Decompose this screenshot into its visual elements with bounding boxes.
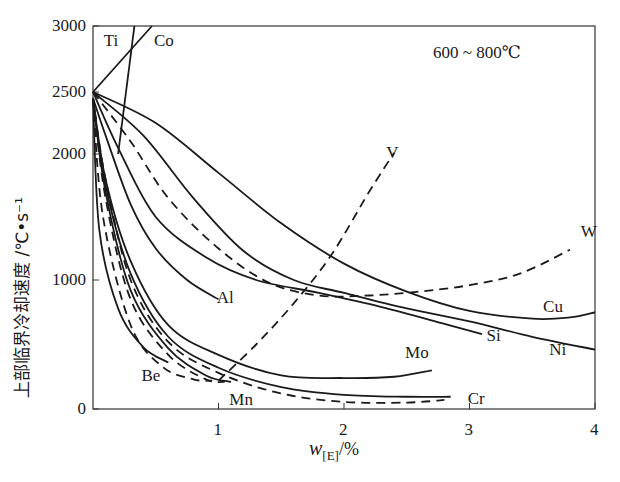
x-axis-label-sub: [E]: [322, 448, 339, 463]
curve-al: [93, 98, 219, 299]
curve-label-ni: Ni: [549, 341, 566, 358]
y-tick-label: 3000: [52, 17, 86, 34]
curve-mo: [93, 98, 432, 378]
curve-label-cr: Cr: [468, 390, 485, 407]
curve-label-si: Si: [487, 327, 501, 344]
y-axis-label: 上部临界冷却速度 /℃•s⁻¹: [8, 197, 33, 398]
chart-plot: [0, 0, 620, 482]
x-axis-label-unit: /%: [339, 439, 359, 459]
curve-label-mn: Mn: [229, 391, 253, 408]
curve-label-v: V: [386, 144, 398, 161]
plot-frame: [93, 26, 595, 409]
curve-cu: [93, 92, 595, 319]
x-axis-label: w[E]/%: [309, 437, 359, 464]
curve-be-mid: [93, 98, 212, 381]
curve-label-al: Al: [217, 289, 234, 306]
curve-label-ti: Ti: [104, 32, 119, 49]
curve-ni: [93, 92, 595, 350]
x-tick-label: 3: [465, 421, 474, 438]
temperature-annotation: 600 ~ 800℃: [433, 44, 521, 61]
curve-label-w: W: [581, 223, 597, 240]
curve-label-mo: Mo: [405, 344, 429, 361]
y-tick-label: 2500: [52, 83, 86, 100]
x-tick-label: 1: [214, 421, 223, 438]
curve-label-be: Be: [141, 367, 160, 384]
y-tick-label: 2000: [52, 145, 86, 162]
curves: [93, 26, 595, 403]
x-tick-label: 2: [339, 421, 348, 438]
y-tick-label: 1000: [52, 271, 86, 288]
curve-label-cu: Cu: [543, 298, 563, 315]
curve-co: [93, 26, 152, 92]
x-axis-label-main: w: [309, 437, 322, 459]
curve-v: [219, 153, 395, 381]
curve-be-inner: [93, 98, 225, 382]
y-tick-label: 0: [78, 400, 87, 417]
axis-ticks: [93, 26, 595, 409]
x-tick-label: 4: [590, 421, 599, 438]
curve-w: [93, 92, 570, 297]
curve-label-co: Co: [154, 32, 174, 49]
